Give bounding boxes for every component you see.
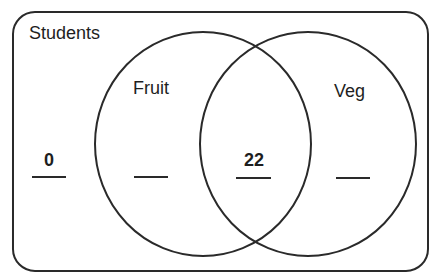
fruit-label: Fruit: [133, 78, 169, 98]
fruit-circle: [95, 32, 311, 256]
universe-label: Students: [29, 23, 100, 43]
outside-value: 0: [44, 150, 54, 170]
veg-label: Veg: [334, 81, 365, 101]
veg-circle: [200, 32, 416, 256]
both-value: 22: [244, 150, 264, 170]
venn-diagram: Students Fruit Veg 0 22: [0, 0, 435, 278]
universe-box: [13, 12, 428, 271]
